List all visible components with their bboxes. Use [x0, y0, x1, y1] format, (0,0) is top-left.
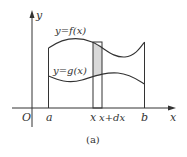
curve-g-label: y=g(x)	[52, 65, 87, 76]
tick-label-b: b	[141, 111, 148, 124]
x-axis-arrow-icon	[168, 106, 176, 111]
origin-label: O	[22, 111, 31, 124]
area-between-curves-diagram: y x O y=f(x) y=g(x) a x x+dx b (a)	[0, 0, 187, 157]
x-axis-label: x	[170, 111, 177, 124]
tick-label-a: a	[46, 111, 53, 124]
tick-label-x: x	[90, 111, 97, 124]
figure-caption: (a)	[86, 134, 100, 145]
y-axis-arrow-icon	[30, 10, 35, 18]
y-axis-label: y	[35, 9, 43, 22]
curve-f-label: y=f(x)	[54, 25, 86, 36]
tick-label-x-plus-dx: x+dx	[99, 112, 125, 123]
